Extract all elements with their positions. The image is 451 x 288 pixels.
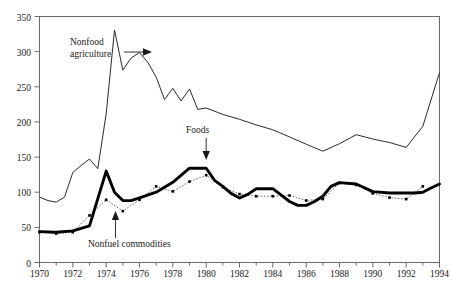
y-axis-label-0: 0 (26, 259, 31, 269)
x-axis-label-1986: 1986 (297, 269, 316, 279)
x-axis-label-1980: 1980 (197, 269, 216, 279)
line-chart: 350 300 250 200 150 100 50 0 (0, 0, 451, 288)
nonfuel-marker-1986 (305, 199, 308, 202)
y-axis-label-50: 50 (22, 223, 32, 233)
annotation-label-foods: Foods (186, 125, 210, 135)
nonfuel-marker-1974 (105, 199, 108, 202)
y-axis-label-350: 350 (17, 13, 32, 23)
x-axis-label-1982: 1982 (230, 269, 249, 279)
chart-background (0, 0, 451, 288)
chart-screenshot: 350 300 250 200 150 100 50 0 (0, 0, 451, 288)
x-axis-label-1976: 1976 (130, 269, 149, 279)
y-axis-label-100: 100 (17, 188, 32, 198)
nonfuel-marker-1975 (122, 210, 125, 213)
nonfuel-marker-1979 (188, 180, 191, 183)
nonfuel-marker-1985 (288, 194, 291, 197)
x-axis-label-1978: 1978 (163, 269, 182, 279)
x-axis-label-1970: 1970 (30, 269, 49, 279)
x-axis-label-1972: 1972 (63, 269, 82, 279)
nonfuel-marker-1992 (405, 198, 408, 201)
annotation-label-nonfood-agriculture-line1: Nonfood (70, 37, 104, 47)
nonfuel-marker-1980 (205, 174, 208, 177)
y-axis-label-250: 250 (17, 83, 32, 93)
x-axis-label-1994: 1994 (430, 269, 449, 279)
nonfuel-marker-1991 (388, 196, 391, 199)
annotation-label-nonfuel-commodities: Nonfuel commodities (88, 239, 171, 249)
x-axis-label-1992: 1992 (397, 269, 416, 279)
x-axis-label-1990: 1990 (363, 269, 382, 279)
nonfuel-marker-1973 (88, 214, 91, 217)
y-axis-label-150: 150 (17, 153, 32, 163)
y-axis-label-200: 200 (17, 118, 32, 128)
x-axis-label-1974: 1974 (97, 269, 116, 279)
y-axis-label-300: 300 (17, 48, 32, 58)
nonfuel-marker-1977 (155, 185, 158, 188)
annotation-label-nonfood-agriculture-line2: agriculture (70, 49, 111, 59)
x-axis-label-1988: 1988 (330, 269, 349, 279)
nonfuel-marker-1982 (238, 193, 241, 196)
nonfuel-marker-1978 (172, 190, 175, 193)
nonfuel-marker-1983 (255, 195, 258, 198)
nonfuel-marker-1984 (272, 195, 275, 198)
x-axis-label-1984: 1984 (263, 269, 282, 279)
nonfuel-marker-1993 (422, 185, 425, 188)
